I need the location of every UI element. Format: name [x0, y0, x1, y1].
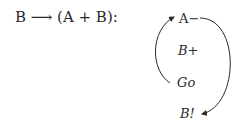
node-b-bang: B!	[180, 107, 195, 120]
arrows-diagram	[0, 0, 252, 130]
node-b-plus: B+	[178, 44, 198, 57]
node-a-minus: A−	[179, 12, 199, 25]
arrow-go-to-a	[155, 17, 174, 83]
arrow-a-to-b-bang	[200, 18, 230, 114]
node-go: Go	[177, 76, 195, 89]
